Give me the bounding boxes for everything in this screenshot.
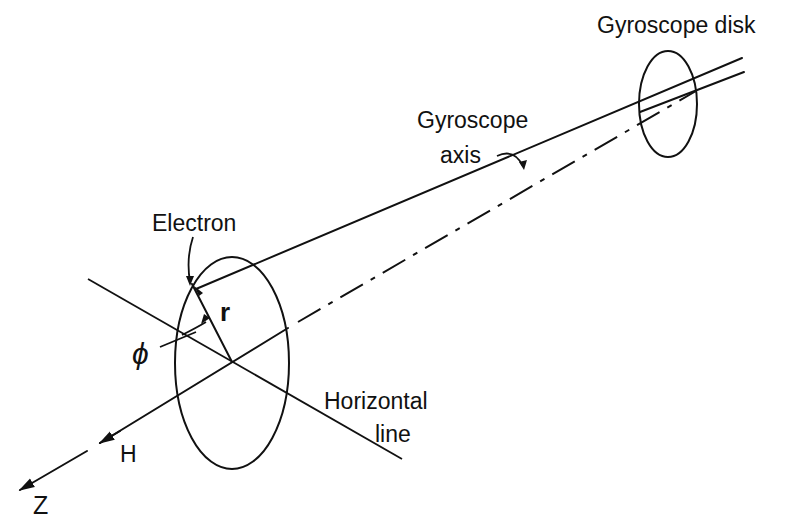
field-h-label: H [120, 441, 137, 467]
radius-label: r [220, 297, 230, 327]
gyroscope-diagram: Gyroscope disk Gyroscope axis Electron r… [0, 0, 786, 524]
gyroscope-axis-label-line2: axis [440, 142, 481, 168]
electron-to-gyroscope-line [196, 58, 742, 289]
electron-leader-curve [189, 237, 193, 282]
gyroscope-disk-ellipse [639, 51, 697, 157]
gyroscope-disk-label: Gyroscope disk [597, 12, 756, 38]
phi-label: ϕ [132, 337, 149, 370]
gyroscope-axis-label-line1: Gyroscope [417, 107, 528, 133]
electron-label: Electron [152, 210, 236, 236]
z-arrow-line [20, 451, 87, 490]
gyroscope-axis-solid-line [640, 72, 744, 112]
z-axis-label: Z [33, 491, 48, 519]
diagram-canvas: Gyroscope disk Gyroscope axis Electron r… [0, 0, 786, 524]
field-axis-inner-line [100, 328, 288, 443]
horizontal-line-label-1: Horizontal [324, 388, 428, 414]
horizontal-line-label-2: line [375, 421, 411, 447]
phi-leader-line [160, 332, 196, 347]
h-arrow-line [100, 431, 120, 443]
